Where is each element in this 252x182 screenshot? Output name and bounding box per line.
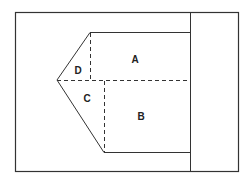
- label-b: B: [137, 111, 144, 122]
- label-d: D: [74, 65, 81, 76]
- pentagon-outline: [57, 33, 190, 153]
- outer-frame: [16, 13, 239, 172]
- diagram-svg: A B C D: [0, 0, 252, 182]
- label-a: A: [131, 54, 138, 65]
- diagram-canvas: A B C D: [0, 0, 252, 182]
- label-c: C: [83, 93, 90, 104]
